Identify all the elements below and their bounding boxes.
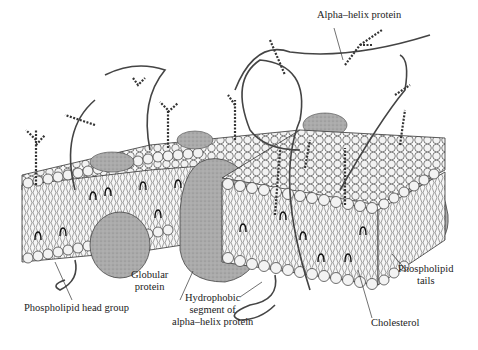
label-tails-line1: Phospholipid — [398, 263, 453, 275]
label-globular-protein: Globular protein — [131, 269, 168, 293]
label-globular-line2: protein — [131, 281, 168, 293]
label-phospholipid-tails: Phospholipid tails — [398, 263, 453, 287]
label-alpha-helix-protein: Alpha–helix protein — [317, 9, 401, 21]
label-phospholipid-head-group: Phospholipid head group — [24, 302, 129, 314]
label-hydrophobic-line2: segment of — [172, 304, 253, 316]
label-hydrophobic-segment: Hydrophobic segment of alpha–helix prote… — [172, 292, 253, 328]
label-hydrophobic-line1: Hydrophobic — [172, 292, 253, 304]
label-tails-line2: tails — [398, 275, 453, 287]
label-hydrophobic-line3: alpha–helix protein — [172, 316, 253, 328]
label-cholesterol: Cholesterol — [371, 317, 419, 329]
label-globular-line1: Globular — [131, 269, 168, 281]
